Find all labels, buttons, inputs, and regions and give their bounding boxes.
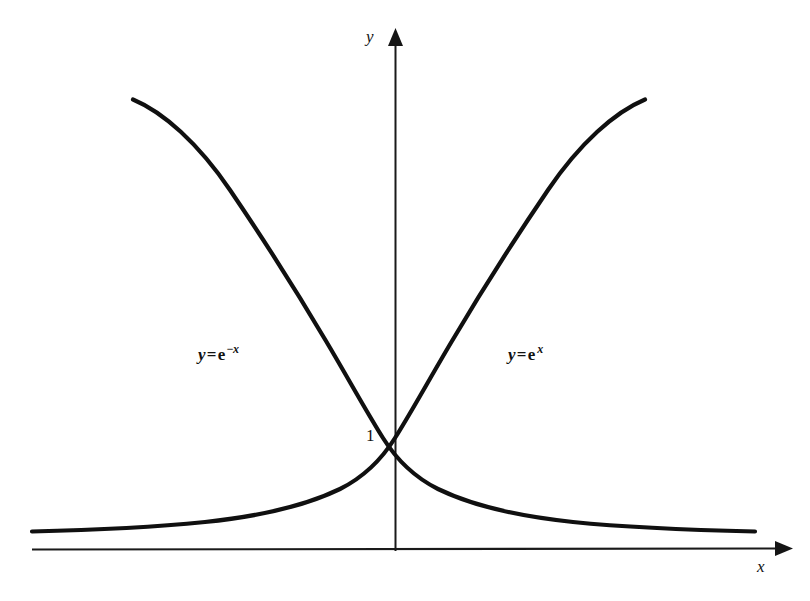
decay-base: e [218,345,226,364]
growth-base: e [528,345,536,364]
exponential-graph-figure: y x 1 y=e−x y=ex [0,0,810,601]
y-axis [388,28,403,551]
decay-lhs: y [198,345,206,364]
x-axis-label: x [757,558,765,575]
y-axis-label: y [366,28,374,45]
graph-canvas [0,0,810,601]
x-axis-line [32,549,783,550]
curve-label-exponential-growth: y=ex [508,346,544,363]
curve-exponential-decay [133,100,755,532]
curve-label-exponential-decay: y=e−x [198,346,239,363]
decay-exponent: −x [226,342,240,356]
y-axis-arrowhead [388,28,403,46]
curve-exponential-growth [32,100,645,532]
x-axis-arrowhead [775,541,793,556]
growth-equals: = [516,345,528,364]
y-intercept-value-label: 1 [366,427,375,444]
decay-equals: = [206,345,218,364]
decay-exponent-variable: x [233,342,239,356]
growth-exponent-variable: x [537,342,543,356]
growth-lhs: y [508,345,516,364]
x-axis [32,541,793,556]
growth-exponent: x [536,342,544,356]
